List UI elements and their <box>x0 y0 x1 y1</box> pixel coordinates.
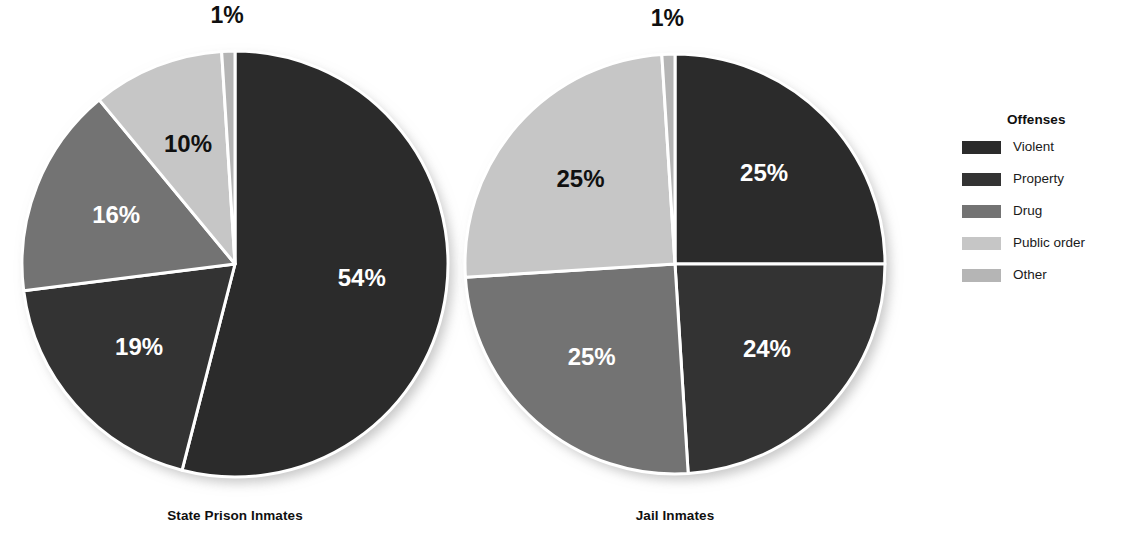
legend-items: ViolentPropertyDrugPublic orderOther <box>962 138 1128 284</box>
pie-chart-figure: 54%19%16%10%1% State Prison Inmates 25%2… <box>0 0 1128 534</box>
legend-swatch-icon <box>962 141 1001 154</box>
pie-slices <box>465 54 885 474</box>
slice-label-drug: 25% <box>568 343 616 370</box>
slice-label-public-order: 10% <box>164 130 212 157</box>
legend: Offenses ViolentPropertyDrugPublic order… <box>962 112 1128 298</box>
legend-item-label: Drug <box>1013 204 1042 218</box>
legend-item-label: Violent <box>1013 140 1054 154</box>
legend-swatch-icon <box>962 269 1001 282</box>
slice-label-property: 24% <box>743 335 791 362</box>
legend-item-label: Other <box>1013 268 1047 282</box>
slice-label-other: 1% <box>651 5 684 31</box>
legend-item-other[interactable]: Other <box>962 266 1128 284</box>
legend-item-label: Public order <box>1013 236 1085 250</box>
legend-swatch-icon <box>962 205 1001 218</box>
chart-left-caption: State Prison Inmates <box>20 508 450 523</box>
legend-swatch-icon <box>962 237 1001 250</box>
slice-label-violent: 54% <box>338 264 386 291</box>
slice-label-public-order: 25% <box>556 165 604 192</box>
slice-label-violent: 25% <box>740 159 788 186</box>
legend-item-public-order[interactable]: Public order <box>962 234 1128 252</box>
legend-item-label: Property <box>1013 172 1064 186</box>
legend-swatch-icon <box>962 173 1001 186</box>
legend-item-property[interactable]: Property <box>962 170 1128 188</box>
pie-right-svg: 25%24%25%25%1% <box>462 12 888 492</box>
legend-item-violent[interactable]: Violent <box>962 138 1128 156</box>
legend-item-drug[interactable]: Drug <box>962 202 1128 220</box>
chart-right-caption: Jail Inmates <box>462 508 888 523</box>
pie-left-svg: 54%19%16%10%1% <box>20 12 450 492</box>
slice-label-property: 19% <box>115 333 163 360</box>
pie-slice-property[interactable] <box>675 264 885 474</box>
chart-state-prison-inmates: 54%19%16%10%1% State Prison Inmates <box>20 12 450 532</box>
slice-label-drug: 16% <box>92 201 140 228</box>
legend-title: Offenses <box>1007 112 1128 127</box>
chart-jail-inmates: 25%24%25%25%1% Jail Inmates <box>462 12 888 532</box>
slice-label-other: 1% <box>211 2 244 28</box>
